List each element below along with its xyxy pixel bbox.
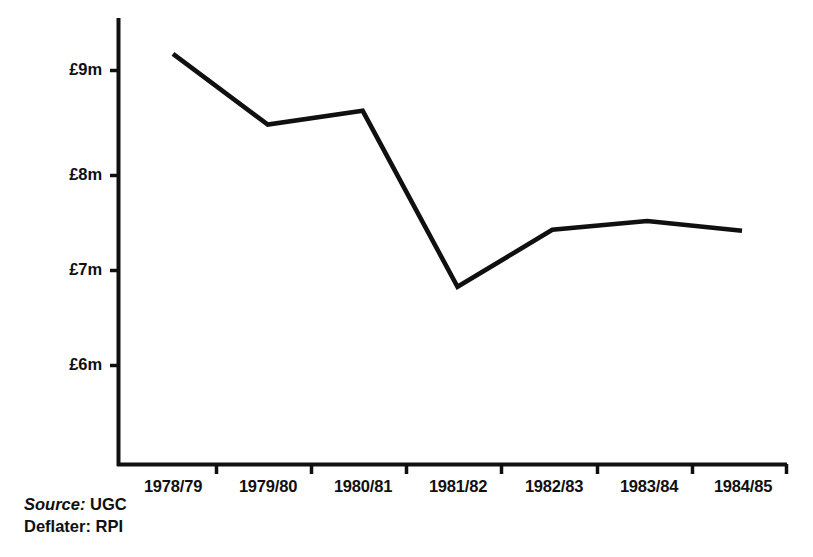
x-tick-label-1978-79: 1978/79 bbox=[128, 477, 218, 496]
footnote-source-label: Source: bbox=[24, 495, 85, 513]
x-tick-label-1983-84: 1983/84 bbox=[604, 477, 694, 496]
footnote-deflater-label: Deflater: bbox=[24, 517, 91, 535]
y-tick-label-7m: £7m bbox=[40, 260, 102, 279]
footnote-deflater-value: RPI bbox=[96, 517, 124, 535]
footnote-source-value: UGC bbox=[90, 495, 127, 513]
line-chart: £9m £8m £7m £6m 1978/79 1979/80 1980/81 … bbox=[0, 0, 813, 557]
y-tick-label-6m: £6m bbox=[40, 355, 102, 374]
x-tick-label-1979-80: 1979/80 bbox=[223, 477, 313, 496]
chart-footnote: Source: UGC Deflater: RPI bbox=[24, 494, 127, 538]
y-tick-label-9m: £9m bbox=[40, 60, 102, 79]
x-tick-label-1984-85: 1984/85 bbox=[698, 477, 788, 496]
chart-plot-area bbox=[0, 0, 813, 557]
y-tick-label-8m: £8m bbox=[40, 165, 102, 184]
x-tick-label-1981-82: 1981/82 bbox=[413, 477, 503, 496]
data-series-line bbox=[173, 54, 742, 287]
x-tick-label-1982-83: 1982/83 bbox=[509, 477, 599, 496]
footnote-source-line: Source: UGC bbox=[24, 494, 127, 516]
footnote-deflater-line: Deflater: RPI bbox=[24, 516, 127, 538]
x-tick-label-1980-81: 1980/81 bbox=[318, 477, 408, 496]
